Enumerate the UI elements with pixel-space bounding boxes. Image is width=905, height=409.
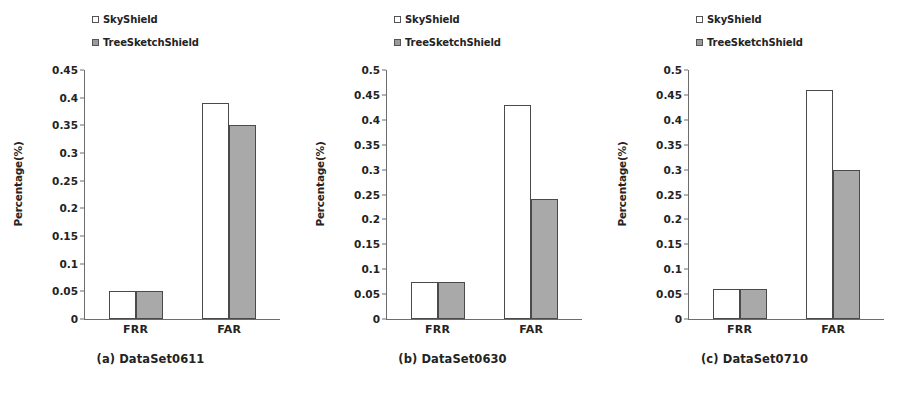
x-axis-labels-b: FRRFAR [387,323,582,343]
y-tick-label: 0 [675,313,682,325]
legend-entry-skyshield: SkyShield [696,14,803,25]
bar-treesketchshield-frr [136,291,163,319]
legend-swatch-treesketchshield-icon [394,39,401,46]
y-tick-label: 0.45 [52,64,78,76]
y-tick-label: 0 [373,313,380,325]
legend-label-treesketchshield: TreeSketchShield [103,37,199,48]
y-tick-label: 0.1 [663,263,682,275]
x-tick-label-far: FAR [217,323,241,336]
bar-treesketchshield-frr [438,282,465,319]
bar-treesketchshield-far [531,199,558,319]
legend-panel-c: SkyShield TreeSketchShield [696,14,803,48]
y-tick-label: 0.45 [354,89,380,101]
y-tick-label: 0.05 [52,285,78,297]
figure-three-panel-bar-charts: SkyShield TreeSketchShield Percentage(%)… [0,0,905,409]
y-tick-label: 0.05 [354,288,380,300]
y-tick-label: 0.35 [354,139,380,151]
y-tick-label: 0.5 [361,64,380,76]
x-tick-label-far: FAR [519,323,543,336]
y-tick-label: 0.1 [361,263,380,275]
y-axis-ticks-c: 00.050.10.150.20.250.30.350.40.450.5 [640,70,688,319]
legend-entry-treesketchshield: TreeSketchShield [394,37,501,48]
x-axis-line-c [688,319,884,320]
plot-area-c: Percentage(%) 00.050.10.150.20.250.30.35… [604,70,905,335]
y-tick-label: 0.35 [656,139,682,151]
legend-panel-a: SkyShield TreeSketchShield [92,14,199,48]
y-tick-label: 0.2 [59,202,78,214]
legend-label-skyshield: SkyShield [707,14,762,25]
y-tick-label: 0.3 [361,164,380,176]
x-axis-line-a [84,319,280,320]
y-tick-label: 0.15 [656,238,682,250]
x-tick-label-frr: FRR [425,323,450,336]
y-tick-label: 0.25 [52,175,78,187]
legend-swatch-skyshield-icon [696,16,703,23]
bar-treesketchshield-frr [740,289,767,319]
bar-treesketchshield-far [229,125,256,319]
chart-panel-b: SkyShield TreeSketchShield Percentage(%)… [302,0,603,409]
legend-swatch-treesketchshield-icon [92,39,99,46]
y-axis-label-a: Percentage(%) [12,104,24,264]
legend-swatch-skyshield-icon [92,16,99,23]
y-tick-label: 0.3 [663,164,682,176]
plot-area-b: Percentage(%) 00.050.10.150.20.250.30.35… [302,70,603,335]
bar-skyshield-frr [109,291,136,319]
y-tick-label: 0.15 [354,238,380,250]
legend-swatch-skyshield-icon [394,16,401,23]
y-axis-label-c: Percentage(%) [616,104,628,264]
legend-label-skyshield: SkyShield [103,14,158,25]
legend-panel-b: SkyShield TreeSketchShield [394,14,501,48]
y-tick-label: 0.4 [663,114,682,126]
caption-b: (b) DataSet0630 [302,352,603,366]
bar-skyshield-frr [411,282,438,319]
y-tick-label: 0 [71,313,78,325]
x-tick-label-frr: FRR [727,323,752,336]
bars-container-a [85,70,280,319]
y-tick-label: 0.2 [361,213,380,225]
y-tick-label: 0.5 [663,64,682,76]
bars-container-c [689,70,884,319]
legend-label-skyshield: SkyShield [405,14,460,25]
legend-entry-skyshield: SkyShield [394,14,501,25]
bar-skyshield-frr [713,289,740,319]
chart-panel-c: SkyShield TreeSketchShield Percentage(%)… [604,0,905,409]
x-axis-labels-a: FRRFAR [85,323,280,343]
legend-entry-treesketchshield: TreeSketchShield [696,37,803,48]
caption-a: (a) DataSet0611 [0,352,301,366]
x-tick-label-far: FAR [821,323,845,336]
x-tick-label-frr: FRR [123,323,148,336]
y-tick-label: 0.2 [663,213,682,225]
bar-skyshield-far [202,103,229,319]
y-tick-label: 0.15 [52,230,78,242]
bars-container-b [387,70,582,319]
caption-c: (c) DataSet0710 [604,352,905,366]
y-tick-label: 0.4 [361,114,380,126]
y-tick-label: 0.35 [52,119,78,131]
y-tick-label: 0.25 [656,189,682,201]
legend-entry-treesketchshield: TreeSketchShield [92,37,199,48]
legend-swatch-treesketchshield-icon [696,39,703,46]
y-axis-label-b: Percentage(%) [314,104,326,264]
legend-label-treesketchshield: TreeSketchShield [707,37,803,48]
y-tick-label: 0.45 [656,89,682,101]
y-axis-ticks-b: 00.050.10.150.20.250.30.350.40.450.5 [338,70,386,319]
bar-skyshield-far [806,90,833,319]
y-tick-label: 0.4 [59,92,78,104]
legend-entry-skyshield: SkyShield [92,14,199,25]
x-axis-labels-c: FRRFAR [689,323,884,343]
y-tick-label: 0.25 [354,189,380,201]
chart-panel-a: SkyShield TreeSketchShield Percentage(%)… [0,0,301,409]
x-axis-line-b [386,319,582,320]
y-tick-label: 0.3 [59,147,78,159]
bar-skyshield-far [504,105,531,319]
bar-treesketchshield-far [833,170,860,319]
y-axis-ticks-a: 00.050.10.150.20.250.30.350.40.45 [36,70,84,319]
y-tick-label: 0.05 [656,288,682,300]
y-tick-label: 0.1 [59,258,78,270]
legend-label-treesketchshield: TreeSketchShield [405,37,501,48]
plot-area-a: Percentage(%) 00.050.10.150.20.250.30.35… [0,70,301,335]
